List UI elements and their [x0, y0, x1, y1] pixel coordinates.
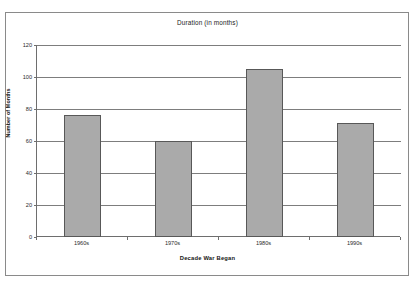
bar-1970s	[155, 141, 192, 237]
y-tick-label: 20	[6, 202, 32, 208]
x-tick-mark	[400, 237, 401, 240]
gridline	[37, 109, 401, 110]
y-tick-mark	[34, 205, 37, 206]
y-tick-mark	[34, 141, 37, 142]
y-tick-mark	[34, 45, 37, 46]
y-tick-label: 0	[6, 234, 32, 240]
y-tick-label: 40	[6, 170, 32, 176]
plot-area	[36, 45, 400, 237]
x-tick-label: 1970s	[165, 240, 180, 246]
y-tick-mark	[34, 109, 37, 110]
chart-title: Duration (in months)	[0, 19, 415, 26]
gridline	[37, 45, 401, 46]
bar-1960s	[64, 115, 101, 237]
y-tick-label: 120	[6, 42, 32, 48]
y-axis-title: Number of Months	[5, 78, 11, 148]
bar-1990s	[337, 123, 374, 237]
x-tick-label: 1990s	[347, 240, 362, 246]
x-tick-label: 1960s	[74, 240, 89, 246]
y-tick-mark	[34, 77, 37, 78]
gridline	[37, 77, 401, 78]
x-tick-label: 1980s	[256, 240, 271, 246]
x-axis-title: Decade War Began	[0, 255, 415, 261]
bar-1980s	[246, 69, 283, 237]
chart-figure: Duration (in months) 020406080100120 Num…	[0, 0, 415, 283]
y-tick-mark	[34, 173, 37, 174]
x-axis-tick-labels: 1960s1970s1980s1990s	[36, 240, 400, 252]
